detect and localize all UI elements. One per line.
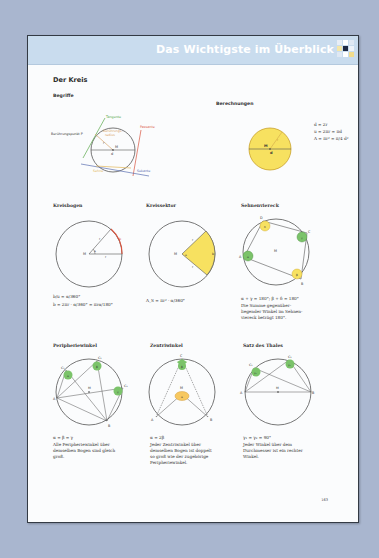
svg-text:Berührungspunkt P: Berührungspunkt P xyxy=(51,132,83,136)
svg-text:B: B xyxy=(312,391,315,395)
zentriwinkel-heading: Zentriwinkel xyxy=(150,343,183,348)
kreisbogen-formula-2: b = 2πr · α/360° = πrα/180° xyxy=(53,302,113,308)
kreisbogen-diagram: M r r b α xyxy=(55,216,135,296)
berechnungen-formula-3: A = πr² = π/4 d² xyxy=(314,136,348,142)
svg-text:B: B xyxy=(108,424,111,428)
svg-text:r: r xyxy=(105,255,107,259)
svg-text:C: C xyxy=(308,230,311,234)
peripheriewinkel-heading: Peripheriewinkel xyxy=(53,343,97,348)
sehnenviereck-formula: α + γ = 180°; β + δ = 180° xyxy=(241,296,299,302)
header-title: Das Wichtigste im Überblick xyxy=(156,43,334,56)
svg-text:C₃: C₃ xyxy=(124,384,128,388)
svg-text:α: α xyxy=(181,395,183,399)
svg-text:α: α xyxy=(247,255,249,259)
svg-text:M: M xyxy=(83,252,86,256)
peripheriewinkel-desc-3: groß. xyxy=(53,454,64,460)
svg-text:M: M xyxy=(174,252,177,256)
svg-text:B: B xyxy=(301,282,304,286)
svg-text:C₂: C₂ xyxy=(98,356,102,360)
svg-text:Tangente: Tangente xyxy=(105,115,121,119)
svg-text:α: α xyxy=(94,249,96,253)
svg-text:M: M xyxy=(88,386,91,390)
thales-heading: Satz des Thales xyxy=(243,343,283,348)
berechnungen-formula-1: d = 2r xyxy=(314,122,328,128)
svg-text:C: C xyxy=(180,354,183,358)
kreissektor-diagram: M r r b α xyxy=(146,216,226,296)
berechnungen-formula-2: u = 2πr = πd xyxy=(314,129,342,135)
thales-desc-3: Winkel. xyxy=(243,454,259,460)
svg-text:M: M xyxy=(276,386,279,390)
svg-text:β: β xyxy=(296,273,298,277)
zentriwinkel-diagram: C M A B α β xyxy=(144,354,224,434)
kreissektor-heading: Kreissektor xyxy=(146,203,176,208)
svg-text:r: r xyxy=(192,265,194,269)
svg-text:M: M xyxy=(274,249,277,253)
svg-text:A: A xyxy=(240,391,243,395)
svg-text:B: B xyxy=(210,418,213,422)
svg-text:Sehne: Sehne xyxy=(93,169,103,173)
sehnenviereck-desc-3: viereck beträgt 180°. xyxy=(241,315,286,321)
svg-text:b: b xyxy=(119,237,121,241)
svg-text:r: r xyxy=(192,238,194,242)
svg-text:radius: radius xyxy=(105,133,115,137)
svg-text:d: d xyxy=(111,152,113,156)
peripheriewinkel-formula: α = β = γ xyxy=(53,435,73,441)
zentriwinkel-formula: α = 2β xyxy=(150,435,164,441)
zentriwinkel-desc-4: Peripheriewinkel. xyxy=(150,460,187,466)
berechnungen-diagram: M d r xyxy=(244,124,304,174)
svg-text:A: A xyxy=(53,397,56,401)
book-page: Das Wichtigste im Überblick Der Kreis Be… xyxy=(27,35,359,523)
begriffe-diagram: Tangente Passante Berührungspunkt P Berü… xyxy=(41,110,181,190)
svg-text:A: A xyxy=(151,418,154,422)
svg-text:D: D xyxy=(260,216,263,220)
berechnungen-heading: Berechnungen xyxy=(216,101,253,106)
kreissektor-formula: A_S = πr² · α/360° xyxy=(146,298,185,304)
sehnenviereck-diagram: A B C D M α β γ δ xyxy=(238,214,318,294)
svg-text:M: M xyxy=(115,145,118,149)
svg-text:β: β xyxy=(181,365,183,369)
page-header: Das Wichtigste im Überblick xyxy=(28,36,358,65)
svg-text:d: d xyxy=(270,151,273,155)
svg-text:δ: δ xyxy=(264,225,266,229)
svg-text:Sekante: Sekante xyxy=(137,169,150,173)
begriffe-heading: Begriffe xyxy=(53,93,74,98)
svg-text:C₂: C₂ xyxy=(288,355,292,359)
kreisbogen-heading: Kreisbogen xyxy=(53,203,82,208)
page-number: 163 xyxy=(321,498,328,502)
svg-text:β: β xyxy=(96,365,98,369)
section-title: Der Kreis xyxy=(53,76,88,84)
svg-text:M: M xyxy=(264,144,268,148)
sehnenviereck-heading: Sehnenviereck xyxy=(241,203,279,208)
svg-text:A: A xyxy=(239,255,242,259)
svg-text:α: α xyxy=(67,374,69,378)
svg-text:α: α xyxy=(185,253,187,257)
mosaic-logo-icon xyxy=(337,40,355,60)
thales-formula: γ₁ = γ₂ = 90° xyxy=(243,435,271,441)
peripheriewinkel-diagram: A B C₁ C₂ C₃ M α β γ xyxy=(53,354,133,434)
kreisbogen-formula-1: b/u = α/360° xyxy=(53,294,80,300)
svg-text:γ₁: γ₁ xyxy=(254,372,257,375)
svg-text:C₁: C₁ xyxy=(249,363,253,367)
svg-text:Passante: Passante xyxy=(140,125,155,129)
svg-text:γ₂: γ₂ xyxy=(288,364,291,367)
svg-text:b: b xyxy=(212,252,214,256)
svg-text:M: M xyxy=(180,386,183,390)
thales-diagram: A B C₁ C₂ M γ₁ γ₂ xyxy=(240,354,320,434)
